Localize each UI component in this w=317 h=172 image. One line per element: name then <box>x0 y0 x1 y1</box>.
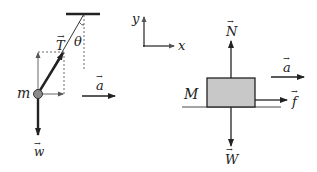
block-weight-vector-mark: → <box>226 145 233 154</box>
block-mass-label: M <box>183 86 199 102</box>
block-weight-label: W <box>225 152 240 167</box>
angle-label: θ <box>74 34 82 49</box>
normal-vector-mark: → <box>227 17 234 26</box>
tension-vector-mark: → <box>57 31 65 41</box>
mass-label-m: m <box>17 85 30 101</box>
y-axis-label: y <box>131 11 140 26</box>
angle-arc <box>79 22 84 25</box>
physics-diagram: m T → θ w → a → y x M N → W → f → a → <box>0 0 317 172</box>
weight-vector-mark: → <box>34 139 41 148</box>
tension-arrow <box>39 53 63 92</box>
friction-vector-mark: → <box>291 87 298 96</box>
mass-ball <box>34 90 43 99</box>
block-diagram: M N → W → f → a → <box>182 17 304 167</box>
normal-label: N <box>225 24 238 39</box>
friction-label: f <box>291 94 299 109</box>
acceleration-vector-mark-right: → <box>283 54 290 63</box>
acceleration-vector-mark-left: → <box>96 72 103 81</box>
pendulum-diagram: m T → θ w → a → <box>17 14 115 159</box>
x-axis-label: x <box>178 38 186 53</box>
block <box>207 78 255 107</box>
coordinate-axes: y x <box>131 11 186 53</box>
